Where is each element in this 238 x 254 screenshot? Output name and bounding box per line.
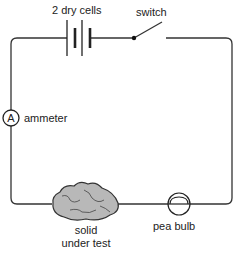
ammeter-icon: A [3,110,19,126]
svg-text:A: A [7,112,15,124]
solid-label-line2: under test [52,237,120,249]
circuit-diagram: A [0,0,238,254]
pea-bulb-icon [168,193,190,215]
battery-label: 2 dry cells [52,4,102,16]
switch-label: switch [136,6,167,18]
wire-right [166,38,232,204]
wire-top-left [11,38,67,110]
bulb-label: pea bulb [153,220,195,232]
switch-arm [134,22,162,38]
ammeter-label: ammeter [24,112,67,124]
battery-icon [67,20,90,56]
wire-bottom-left [11,126,52,204]
solid-sample-icon [53,182,118,220]
switch-pivot-icon [132,36,136,40]
solid-label-line1: solid [58,224,114,236]
